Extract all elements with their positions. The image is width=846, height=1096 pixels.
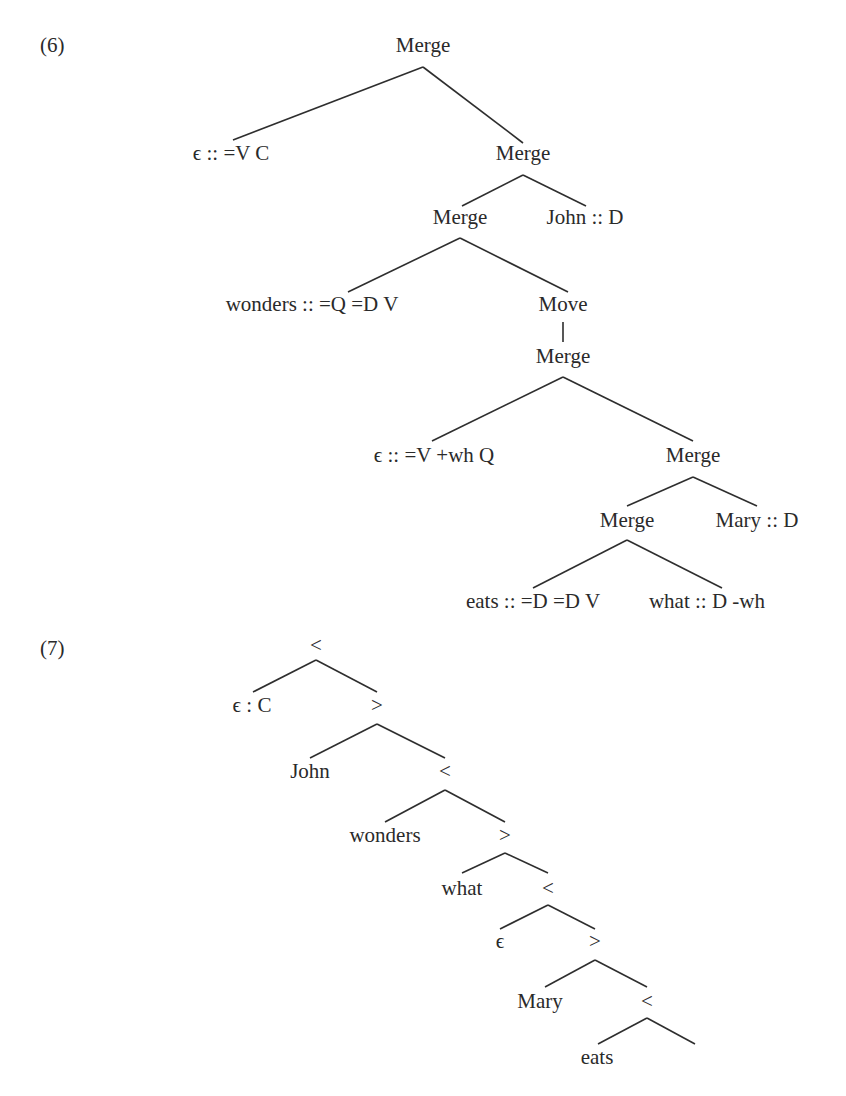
tree-edge	[627, 540, 722, 588]
tree-node-label: Merge	[600, 508, 654, 532]
example-6: (6) Mergeϵ :: =V CMergeMergeJohn :: Dwon…	[40, 33, 798, 613]
tree-node-label: Mary :: D	[716, 508, 799, 532]
tree-node-label: >	[499, 823, 511, 847]
tree-edge	[310, 724, 377, 758]
tree-node-label: Merge	[666, 443, 720, 467]
tree-edge	[693, 477, 757, 506]
tree-edge	[460, 238, 568, 292]
tree-edge	[462, 175, 523, 206]
example-number: (7)	[40, 636, 65, 660]
tree-edge	[385, 790, 445, 822]
example-number: (6)	[40, 33, 65, 57]
diagram-canvas: (6) Mergeϵ :: =V CMergeMergeJohn :: Dwon…	[0, 0, 846, 1096]
tree-node-label: what	[442, 876, 483, 900]
tree-node-label: ϵ : C	[233, 693, 272, 717]
tree-node-label: wonders :: =Q =D V	[226, 292, 399, 316]
tree-node-label: John :: D	[546, 205, 623, 229]
tree-edge	[533, 540, 627, 588]
tree-node-label: Merge	[496, 141, 550, 165]
tree-edge	[253, 660, 316, 692]
tree-edge	[548, 905, 595, 929]
tree-edge	[445, 790, 505, 822]
tree-node-label: Merge	[396, 33, 450, 57]
derived-tree-edges	[253, 660, 695, 1044]
tree-edge	[423, 67, 523, 143]
tree-edge	[545, 960, 595, 987]
tree-edge	[462, 853, 505, 873]
tree-node-label: what :: D -wh	[649, 589, 766, 613]
tree-edge	[500, 905, 548, 929]
tree-edge	[316, 660, 377, 692]
tree-node-label: ϵ :: =V +wh Q	[374, 443, 494, 467]
tree-edge	[432, 377, 563, 441]
tree-edge	[647, 1018, 695, 1044]
tree-edge	[598, 1018, 647, 1044]
tree-node-label: Mary	[517, 989, 563, 1013]
tree-edge	[563, 377, 693, 441]
tree-edge	[233, 67, 423, 140]
tree-node-label: eats :: =D =D V	[466, 589, 600, 613]
tree-node-label: Merge	[433, 205, 487, 229]
tree-edge	[627, 477, 693, 506]
tree-edge	[348, 238, 460, 292]
tree-edge	[505, 853, 548, 873]
tree-node-label: <	[542, 876, 554, 900]
tree-node-label: John	[290, 759, 330, 783]
tree-node-label: <	[310, 633, 322, 657]
tree-edge	[595, 960, 647, 987]
tree-node-label: ϵ	[496, 929, 505, 953]
tree-node-label: wonders	[349, 823, 420, 847]
tree-node-label: ϵ :: =V C	[193, 141, 270, 165]
tree-node-label: Merge	[536, 344, 590, 368]
tree-node-label: <	[641, 989, 653, 1013]
tree-node-label: >	[371, 693, 383, 717]
tree-edge	[377, 724, 445, 758]
tree-node-label: Move	[539, 292, 588, 316]
tree-node-label: eats	[581, 1045, 614, 1069]
tree-node-label: >	[589, 929, 601, 953]
tree-node-label: <	[439, 759, 451, 783]
example-7: (7) <ϵ : C>John<wonders>what<ϵ>Mary<eats	[40, 633, 695, 1069]
derived-tree-nodes: <ϵ : C>John<wonders>what<ϵ>Mary<eats	[233, 633, 653, 1069]
tree-edge	[523, 175, 586, 206]
